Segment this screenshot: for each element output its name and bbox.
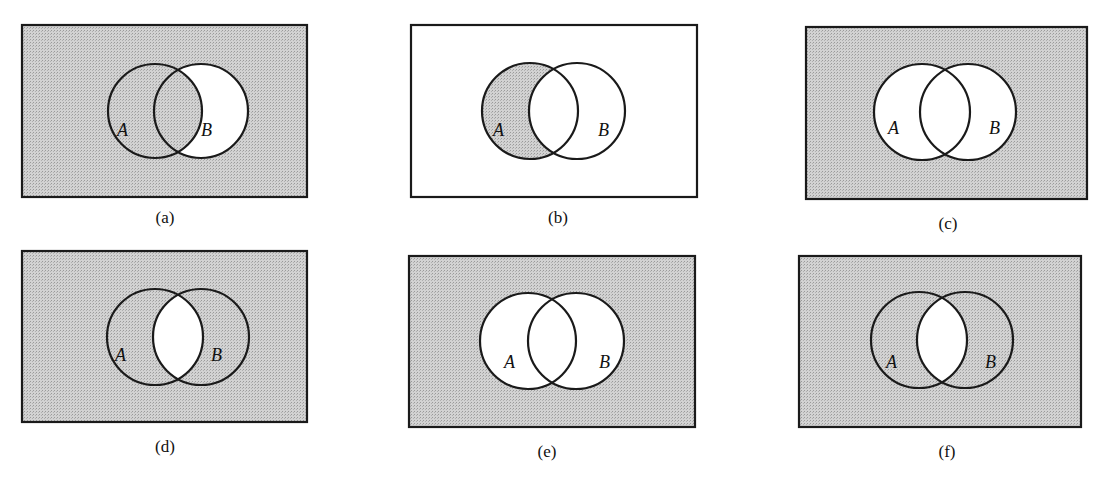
panel-caption: (a) bbox=[156, 208, 175, 227]
venn-panel-c: AB(c) bbox=[806, 27, 1087, 233]
set-b-label: B bbox=[599, 352, 610, 372]
set-a-label: A bbox=[503, 352, 516, 372]
set-a-label: A bbox=[114, 345, 127, 365]
set-b-label: B bbox=[201, 120, 212, 140]
set-b-label: B bbox=[989, 118, 1000, 138]
set-b-label: B bbox=[985, 352, 996, 372]
set-a-label: A bbox=[885, 352, 898, 372]
set-a-label: A bbox=[887, 118, 900, 138]
venn-panel-b: AB(b) bbox=[411, 25, 697, 227]
panel-caption: (e) bbox=[538, 442, 557, 461]
panel-caption: (d) bbox=[155, 437, 175, 456]
panel-caption: (b) bbox=[548, 208, 568, 227]
venn-panel-d: AB(d) bbox=[22, 251, 307, 456]
panel-caption: (f) bbox=[939, 442, 956, 461]
set-a-label: A bbox=[492, 120, 505, 140]
venn-panel-a: AB(a) bbox=[22, 25, 307, 227]
venn-panel-e: AB(e) bbox=[409, 256, 695, 461]
panel-caption: (c) bbox=[939, 214, 958, 233]
set-a-label: A bbox=[116, 120, 129, 140]
set-b-label: B bbox=[211, 345, 222, 365]
venn-diagram-figure: AB(a)AB(b)AB(c)AB(d)AB(e)AB(f) bbox=[0, 0, 1102, 482]
set-b-label: B bbox=[598, 120, 609, 140]
venn-panel-f: AB(f) bbox=[799, 256, 1081, 461]
